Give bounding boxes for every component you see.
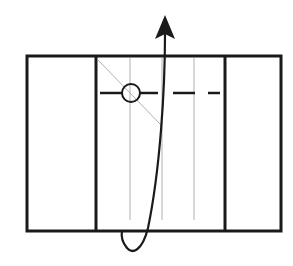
pivot-circle-icon [122, 84, 140, 102]
fold-arrow-path [122, 34, 165, 251]
outer-rectangle [27, 56, 281, 231]
paper-outline [27, 56, 281, 231]
crease-lines [98, 58, 194, 220]
origami-diagram [0, 0, 293, 266]
